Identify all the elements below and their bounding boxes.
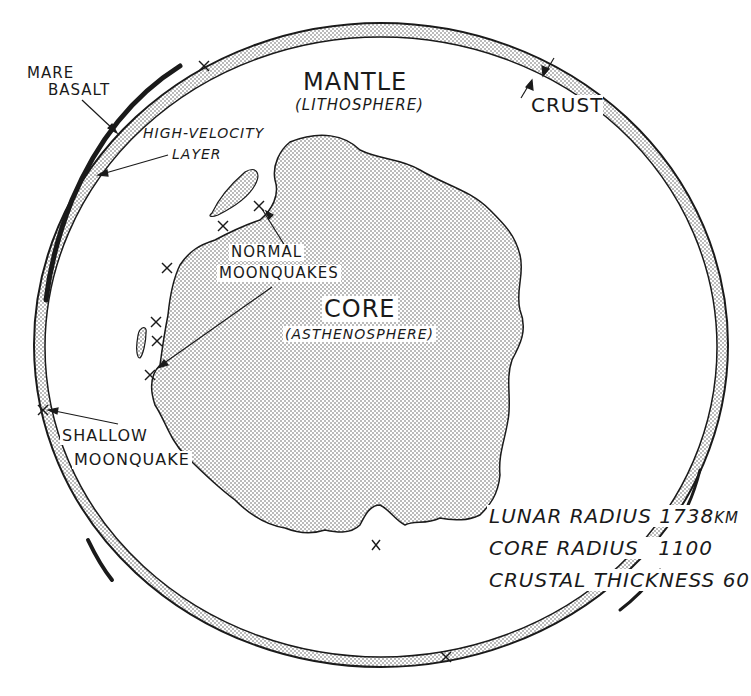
core-sublabel: (ASTHENOSPHERE) xyxy=(283,326,436,342)
core-radius-row: CORE RADIUS 1100 xyxy=(487,537,751,559)
crustal-thickness-label: CRUSTAL THICKNESS xyxy=(489,568,715,592)
lunar-radius-value: 1738 xyxy=(659,504,714,528)
lunar-radius-label: LUNAR RADIUS xyxy=(489,504,652,528)
lunar-radius-unit: KM xyxy=(714,509,739,527)
normal-moonquakes-label-line1: NORMAL xyxy=(229,244,304,261)
mare-basalt-label-line2: BASALT xyxy=(48,83,110,98)
crust-label: CRUST xyxy=(531,95,603,115)
high-velocity-label-line1: HIGH-VELOCITY xyxy=(141,125,266,141)
lunar-radius-row: LUNAR RADIUS 1738KM xyxy=(487,505,751,527)
core-label: CORE xyxy=(322,296,398,322)
crustal-thickness-value: 60 xyxy=(723,568,750,592)
mantle-sublabel: (LITHOSPHERE) xyxy=(295,98,424,113)
core-radius-label: CORE RADIUS xyxy=(489,536,639,560)
shallow-moonquake-label-line1: SHALLOW xyxy=(60,427,150,445)
mare-basalt-label-line1: MARE xyxy=(27,66,74,81)
normal-moonquakes-label-line2: MOONQUAKES xyxy=(217,265,341,282)
crustal-thickness-row: CRUSTAL THICKNESS 60 xyxy=(487,569,751,591)
mantle-label: MANTLE xyxy=(303,70,407,94)
high-velocity-label-line2: LAYER xyxy=(170,146,224,162)
dimensions-table: LUNAR RADIUS 1738KM CORE RADIUS 1100 CRU… xyxy=(487,505,751,591)
shallow-moonquake-label-line2: MOONQUAKE xyxy=(72,451,192,469)
core-radius-value: 1100 xyxy=(658,536,713,560)
